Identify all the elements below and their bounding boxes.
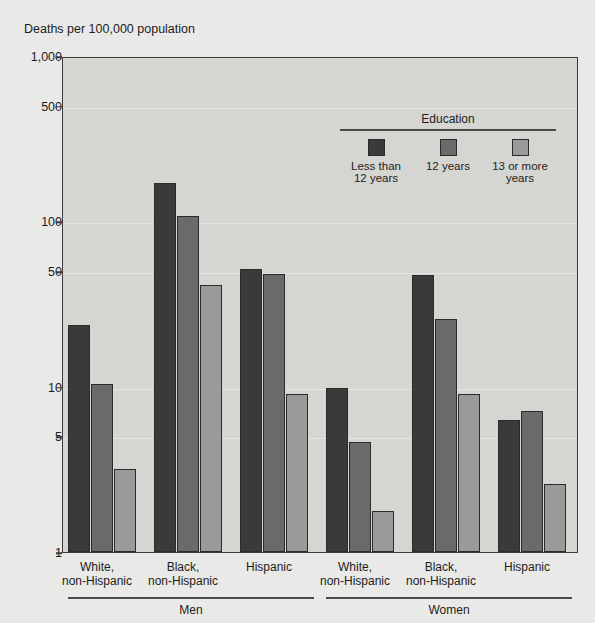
bar xyxy=(349,442,371,552)
legend-item-less-than-12-years[interactable]: Less than 12 years xyxy=(340,139,412,185)
category-label-line1: White, xyxy=(54,561,140,575)
category-label-line2: non-Hispanic xyxy=(54,575,140,589)
category-label: Hispanic xyxy=(484,561,570,575)
legend-divider xyxy=(340,129,556,131)
category-label-line1: Hispanic xyxy=(484,561,570,575)
bar xyxy=(435,319,457,552)
y-axis-tick-label: 500 xyxy=(6,100,62,114)
legend-items: Less than 12 years 12 years 13 or more y… xyxy=(340,139,556,185)
bar xyxy=(458,394,480,552)
bar xyxy=(154,183,176,552)
group-label: Women xyxy=(326,603,572,617)
bar xyxy=(372,511,394,552)
legend-label-line1: 13 or more xyxy=(484,160,556,173)
category-label: Black,non-Hispanic xyxy=(140,561,226,588)
bar xyxy=(177,216,199,553)
legend-item-13-or-more-years[interactable]: 13 or more years xyxy=(484,139,556,185)
legend-swatch-13-or-more-years xyxy=(512,139,529,156)
bar xyxy=(521,411,543,552)
legend-item-12-years[interactable]: 12 years xyxy=(412,139,484,185)
legend-label-12-years: 12 years xyxy=(412,160,484,173)
bar xyxy=(68,325,90,552)
category-label: White,non-Hispanic xyxy=(312,561,398,588)
group-divider xyxy=(326,597,572,599)
bar xyxy=(114,469,136,552)
gridline xyxy=(63,389,577,390)
legend-label-line2: 12 years xyxy=(340,172,412,185)
y-axis: 1510501005001,000 xyxy=(0,0,62,623)
y-axis-tick-label: 1,000 xyxy=(6,50,62,64)
legend-title: Education xyxy=(340,112,556,126)
bar xyxy=(498,420,520,552)
bar xyxy=(91,384,113,552)
legend-label-line1: Less than xyxy=(340,160,412,173)
chart-figure: Deaths per 100,000 population 1510501005… xyxy=(0,0,595,623)
category-label: White,non-Hispanic xyxy=(54,561,140,588)
y-axis-tick-label: 100 xyxy=(6,215,62,229)
bar xyxy=(412,275,434,552)
gridline xyxy=(63,108,577,109)
category-label-line2: non-Hispanic xyxy=(398,575,484,589)
bar xyxy=(240,269,262,552)
gridline xyxy=(63,223,577,224)
y-axis-tick-label: 5 xyxy=(6,430,62,444)
legend-swatch-12-years xyxy=(440,139,457,156)
legend-label-13-or-more-years: 13 or more years xyxy=(484,160,556,185)
chart-legend: Education Less than 12 years 12 years 13… xyxy=(340,112,556,185)
category-label-line1: Black, xyxy=(398,561,484,575)
category-label-line1: Black, xyxy=(140,561,226,575)
y-axis-tick-label: 10 xyxy=(6,381,62,395)
bar xyxy=(544,484,566,552)
category-label: Hispanic xyxy=(226,561,312,575)
category-label: Black,non-Hispanic xyxy=(398,561,484,588)
group-label: Men xyxy=(68,603,314,617)
bar xyxy=(286,394,308,552)
y-axis-tick-label: 50 xyxy=(6,265,62,279)
bar xyxy=(263,274,285,552)
legend-label-line2: years xyxy=(484,172,556,185)
legend-swatch-less-than-12-years xyxy=(368,139,385,156)
bar xyxy=(326,388,348,552)
category-label-line1: Hispanic xyxy=(226,561,312,575)
legend-label-less-than-12-years: Less than 12 years xyxy=(340,160,412,185)
category-label-line2: non-Hispanic xyxy=(140,575,226,589)
gridline xyxy=(63,273,577,274)
category-label-line2: non-Hispanic xyxy=(312,575,398,589)
y-axis-tick-label: 1 xyxy=(6,546,62,560)
group-divider xyxy=(68,597,314,599)
legend-label-line1: 12 years xyxy=(412,160,484,173)
bar xyxy=(200,285,222,552)
category-label-line1: White, xyxy=(312,561,398,575)
